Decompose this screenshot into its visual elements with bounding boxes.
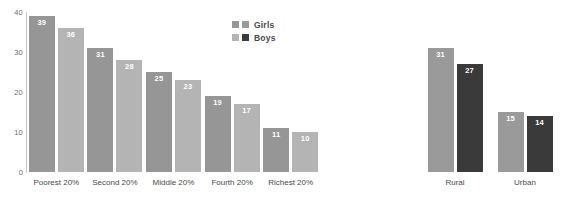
- bar-value-label: 23: [175, 82, 201, 91]
- bar-girls[interactable]: 15: [498, 112, 524, 172]
- bar-group-bars: 15 14: [490, 12, 560, 172]
- chart-legend: Girls Boys: [232, 18, 276, 44]
- bar-boys[interactable]: 28: [116, 60, 142, 172]
- bar-girls[interactable]: 31: [428, 48, 454, 172]
- bar-value-label: 39: [29, 18, 55, 27]
- bar-value-label: 11: [263, 130, 289, 139]
- bar-boys[interactable]: 27: [457, 64, 483, 172]
- bar-boys[interactable]: 10: [292, 132, 318, 172]
- legend-swatch-boys-left: [232, 34, 239, 41]
- y-tick-label: 30: [14, 48, 23, 57]
- bar-girls[interactable]: 11: [263, 128, 289, 172]
- bar-value-label: 17: [234, 106, 260, 115]
- bar-group-poorest-20: 39 36 Poorest 20%: [27, 12, 86, 172]
- bar-group-second-20: 31 28 Second 20%: [86, 12, 145, 172]
- legend-entry-boys[interactable]: Boys: [232, 31, 276, 44]
- chart-panel-wealth-quintile: 40 30 20 10 0 39 36 Poorest 20%: [0, 0, 400, 204]
- bar-boys[interactable]: 14: [527, 116, 553, 172]
- legend-swatch-girls-left: [232, 21, 239, 28]
- bar-boys[interactable]: 17: [234, 104, 260, 172]
- bar-value-label: 28: [116, 62, 142, 71]
- chart-figure: 40 30 20 10 0 39 36 Poorest 20%: [0, 0, 568, 204]
- legend-label-boys: Boys: [254, 33, 276, 43]
- bar-value-label: 19: [205, 98, 231, 107]
- bar-group-bars: 39 36: [27, 12, 86, 172]
- bar-group-bars: 25 23: [144, 12, 203, 172]
- x-tick-label-richest-20: Richest 20%: [247, 178, 334, 187]
- legend-swatch-girls-right: [242, 21, 249, 28]
- bar-value-label: 31: [87, 50, 113, 59]
- bar-value-label: 10: [292, 134, 318, 143]
- bar-value-label: 15: [498, 114, 524, 123]
- bar-value-label: 25: [146, 74, 172, 83]
- bar-girls[interactable]: 39: [29, 16, 55, 172]
- bar-group-middle-20: 25 23 Middle 20%: [144, 12, 203, 172]
- bar-group-rural: 31 27 Rural: [420, 12, 490, 172]
- x-tick-label-urban: Urban: [476, 178, 568, 187]
- bar-boys[interactable]: 36: [58, 28, 84, 172]
- y-tick-label: 10: [14, 128, 23, 137]
- plot-area-wealth-quintile: 40 30 20 10 0 39 36 Poorest 20%: [27, 12, 320, 172]
- bar-boys[interactable]: 23: [175, 80, 201, 172]
- chart-panel-residence: 31 27 Rural 15 14 Urba: [400, 0, 568, 204]
- bar-value-label: 36: [58, 30, 84, 39]
- legend-entry-girls[interactable]: Girls: [232, 18, 276, 31]
- bar-girls[interactable]: 19: [205, 96, 231, 172]
- legend-swatch-boys-right: [242, 34, 249, 41]
- plot-area-residence: 31 27 Rural 15 14 Urba: [420, 12, 560, 172]
- bar-girls[interactable]: 25: [146, 72, 172, 172]
- legend-label-girls: Girls: [254, 20, 274, 30]
- bar-value-label: 14: [527, 118, 553, 127]
- bar-group-bars: 31 28: [86, 12, 145, 172]
- bar-group-bars: 31 27: [420, 12, 490, 172]
- bar-girls[interactable]: 31: [87, 48, 113, 172]
- y-tick-label: 40: [14, 8, 23, 17]
- bar-value-label: 27: [457, 66, 483, 75]
- bar-value-label: 31: [428, 50, 454, 59]
- bar-group-urban: 15 14 Urban: [490, 12, 560, 172]
- y-tick-label: 0: [19, 168, 23, 177]
- y-tick-label: 20: [14, 88, 23, 97]
